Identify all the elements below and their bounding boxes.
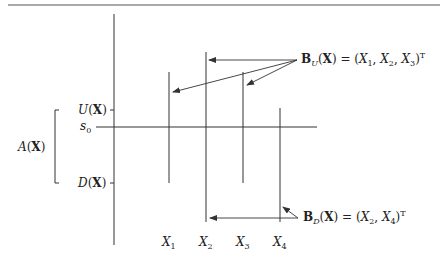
U-label: U(X): [78, 104, 107, 116]
D-label: D(X): [78, 177, 106, 189]
BD-bold: B: [303, 210, 313, 224]
BU-t2: X: [380, 52, 389, 66]
BU-annotation: BU(X) = (X1, X2, X3)T: [301, 52, 425, 68]
BD-arg: X: [324, 210, 333, 224]
D-arg: X: [92, 176, 101, 190]
A-label: A(X): [18, 141, 45, 153]
X4-sub: 4: [282, 242, 287, 251]
U-fn: U: [78, 103, 88, 117]
BD-t1: X: [361, 210, 370, 224]
A-arg: X: [31, 140, 40, 154]
BU-t1: X: [359, 52, 368, 66]
X1-base: X: [162, 235, 171, 249]
BU-t1-sub: 1: [368, 59, 373, 68]
BU-t3: X: [402, 52, 411, 66]
A-fn: A: [18, 140, 27, 154]
BD-t1-sub: 2: [369, 217, 374, 226]
diagram-canvas: U(X) s0 D(X) A(X) X1 X2 X3 X4 BU(X) = (X…: [0, 0, 444, 260]
X3-label: X3: [236, 236, 250, 251]
s0-label: s0: [80, 120, 91, 135]
A-bracket: [55, 110, 59, 183]
X4-label: X4: [273, 236, 287, 251]
BU-sup: T: [420, 51, 425, 60]
s0-sub: 0: [86, 126, 91, 135]
X1-label: X1: [162, 236, 176, 251]
BU-arrow-to-X3: [247, 60, 297, 85]
BU-bold: B: [301, 52, 311, 66]
BU-sub: U: [311, 59, 318, 68]
X2-sub: 2: [208, 242, 213, 251]
BU-arg: X: [323, 52, 332, 66]
BU-t3-sub: 3: [410, 59, 415, 68]
BD-sup: T: [400, 209, 405, 218]
BD-sub: D: [313, 217, 319, 226]
X4-base: X: [273, 235, 282, 249]
BD-annotation: BD(X) = (X2, X4)T: [303, 210, 406, 226]
X2-label: X2: [199, 236, 213, 251]
U-arg: X: [93, 103, 102, 117]
BD-t2-sub: 4: [390, 217, 395, 226]
X3-sub: 3: [245, 242, 250, 251]
D-fn: D: [78, 176, 88, 190]
X2-base: X: [199, 235, 208, 249]
BD-arrow-to-X4: [283, 207, 298, 218]
BU-t2-sub: 2: [389, 59, 394, 68]
X1-sub: 1: [171, 242, 176, 251]
BU-arrow-to-X1: [173, 60, 297, 92]
X3-base: X: [236, 235, 245, 249]
